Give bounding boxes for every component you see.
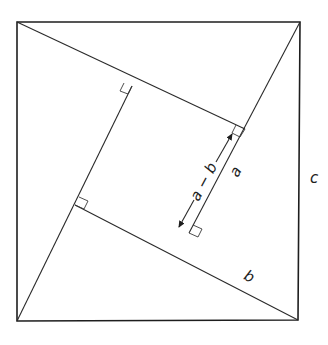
triangle-edge-bottom [75,205,298,320]
triangle-edge-left [17,86,132,321]
outer-square [17,22,300,321]
dimension-arrow-upper [216,134,232,162]
diagram-canvas: a − b a b c [0,0,328,345]
triangle-edge-right [189,22,300,233]
label-short-leg: b [241,266,258,286]
pythagorean-diagram: a − b a b c [0,0,328,345]
dimension-arrow-lower [179,200,194,227]
label-long-leg: a [225,163,245,180]
label-hypotenuse: c [310,169,319,187]
triangle-edge-top [17,22,245,129]
right-angle-mark-bottom [189,225,202,237]
